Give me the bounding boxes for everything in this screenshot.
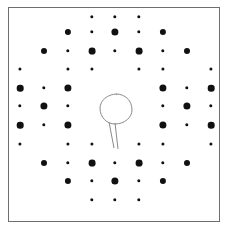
diffraction-figure xyxy=(0,0,229,232)
diffraction-spot xyxy=(113,49,116,52)
diffraction-spot xyxy=(17,122,24,129)
diffraction-spot xyxy=(209,104,212,107)
diffraction-spot xyxy=(208,122,215,129)
diffraction-spot xyxy=(185,123,188,126)
diffraction-spot xyxy=(159,84,166,91)
diffraction-spot xyxy=(209,67,212,70)
diffraction-spot xyxy=(161,104,164,107)
diffraction-spot xyxy=(90,30,93,33)
diffraction-spot xyxy=(90,67,93,70)
diffraction-spot xyxy=(161,67,164,70)
diffraction-spot xyxy=(90,198,93,201)
diffraction-spot xyxy=(159,121,166,128)
diffraction-spot xyxy=(209,142,212,145)
diffraction-spot xyxy=(42,123,45,126)
diffraction-spot xyxy=(185,86,188,89)
diffraction-spot xyxy=(90,15,93,18)
diffraction-spot xyxy=(184,160,190,166)
diffraction-spot xyxy=(66,142,69,145)
diffraction-spot xyxy=(161,142,164,145)
diffraction-spot xyxy=(65,29,71,35)
diffraction-spot xyxy=(113,15,116,18)
diffraction-spot xyxy=(137,179,140,182)
diffraction-spot xyxy=(18,67,21,70)
diffraction-spot-layer xyxy=(9,8,219,221)
diffraction-spot xyxy=(65,178,71,184)
diffraction-spot xyxy=(64,84,71,91)
diffraction-spot xyxy=(111,177,118,184)
diffraction-spot xyxy=(111,28,118,35)
diffraction-spot xyxy=(40,102,47,109)
diffraction-spot xyxy=(184,48,190,54)
diffraction-spot xyxy=(66,161,69,164)
diffraction-spot xyxy=(136,48,143,55)
diffraction-spot xyxy=(64,121,71,128)
diffraction-spot xyxy=(90,142,93,145)
diffraction-spot xyxy=(42,86,45,89)
diffraction-spot xyxy=(160,178,166,184)
diffraction-spot xyxy=(137,142,140,145)
diffraction-spot xyxy=(90,179,93,182)
diffraction-spot xyxy=(113,161,116,164)
diffraction-spot xyxy=(161,49,164,52)
diffraction-spot xyxy=(137,67,140,70)
diffraction-spot xyxy=(66,49,69,52)
diffraction-spot xyxy=(41,48,47,54)
diffraction-spot xyxy=(183,102,190,109)
diffraction-spot xyxy=(137,198,140,201)
diffraction-spot xyxy=(161,161,164,164)
diffraction-spot xyxy=(17,85,24,92)
diffraction-spot xyxy=(89,160,96,167)
diffraction-spot xyxy=(160,29,166,35)
plot-frame xyxy=(8,7,220,222)
diffraction-spot xyxy=(89,48,96,55)
diffraction-spot xyxy=(137,15,140,18)
diffraction-spot xyxy=(137,30,140,33)
diffraction-spot xyxy=(66,67,69,70)
diffraction-spot xyxy=(113,198,116,201)
diffraction-spot xyxy=(66,104,69,107)
diffraction-spot xyxy=(208,85,215,92)
diffraction-spot xyxy=(136,160,143,167)
diffraction-spot xyxy=(18,142,21,145)
diffraction-spot xyxy=(41,160,47,166)
diffraction-spot xyxy=(18,104,21,107)
